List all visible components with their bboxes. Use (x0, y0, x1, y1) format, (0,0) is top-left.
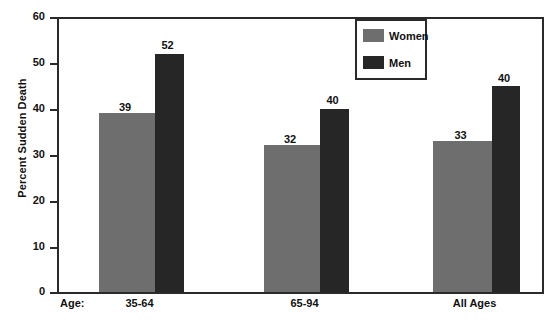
y-axis-tick-label-10: 10 (0, 240, 45, 252)
bar-value-women-65-94: 32 (262, 133, 318, 145)
x-axis-group-label-65-94: 65-94 (262, 297, 347, 309)
chart-page: Percent Sudden Death 60 50 40 30 20 10 0 (0, 0, 560, 328)
plot-area (57, 17, 544, 294)
bar-women-65-94[interactable] (264, 145, 320, 292)
bar-value-men-all-ages: 40 (475, 72, 533, 84)
x-axis-prefix-label: Age: (60, 297, 84, 309)
legend-swatch-women-icon (363, 29, 384, 42)
legend-label-women: Women (389, 30, 429, 42)
x-axis-group-label-all-ages: All Ages (431, 297, 518, 309)
y-axis-tick-label-60: 60 (0, 10, 45, 22)
bar-women-35-64[interactable] (99, 113, 155, 292)
bar-men-all-ages[interactable] (492, 86, 520, 292)
bar-value-women-35-64: 39 (97, 101, 153, 113)
bar-value-women-all-ages: 33 (431, 129, 490, 141)
bar-men-35-64[interactable] (155, 54, 184, 292)
x-axis-group-label-35-64: 35-64 (97, 297, 182, 309)
bar-men-65-94[interactable] (320, 109, 349, 292)
y-axis-tick-label-50: 50 (0, 56, 45, 68)
y-axis-tick-label-20: 20 (0, 194, 45, 206)
y-axis-tick-label-40: 40 (0, 102, 45, 114)
legend-swatch-men-icon (363, 56, 384, 69)
legend-label-men: Men (389, 57, 411, 69)
bar-women-all-ages[interactable] (433, 141, 492, 292)
bar-value-men-35-64: 52 (138, 39, 197, 51)
y-axis-tick-label-0: 0 (0, 285, 45, 297)
bar-value-men-65-94: 40 (303, 94, 362, 106)
legend-item-men[interactable]: Men (363, 55, 411, 70)
y-axis-title: Percent Sudden Death (16, 0, 28, 278)
legend: Women Men (355, 19, 427, 80)
legend-item-women[interactable]: Women (363, 28, 429, 43)
y-axis-tick-label-30: 30 (0, 148, 45, 160)
